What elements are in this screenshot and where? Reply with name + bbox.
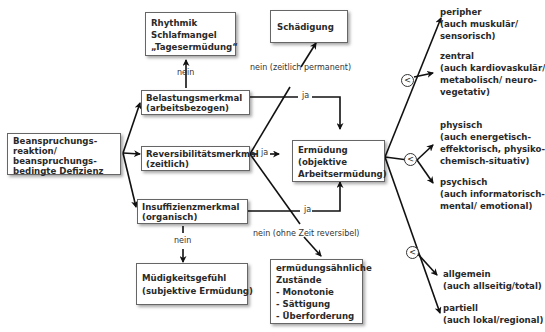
root-line-4: bedingte Defizienz [13,166,115,176]
rhythmik-box: Rhythmik Schlafmangel „Tagesermüdung“ [145,12,236,56]
psychisch-line-3: mental/ emotional) [440,200,545,212]
rhythmik-line-3: „Tagesermüdung“ [151,41,230,53]
belastung-subtitle: (arbeitsbezogen) [146,103,245,113]
ermuedung-line-2: (objektive [298,156,379,168]
peripher-title: peripher [440,6,518,18]
comparator-icon-middle: < [404,153,417,166]
label-ja-belastung: ja [302,91,309,100]
rhythmik-line-1: Rhythmik [151,17,230,29]
ermuedung-line-3: Arbeitsermüdung) [298,168,379,180]
partiell-line-2: (auch lokal/regional) [443,314,543,326]
muedigkeit-title: Müdigkeitsgefühl [142,272,242,285]
partiell-title: partiell [443,302,543,314]
root-line-2: reaktion/ [13,146,115,156]
label-partiell: partiell (auch lokal/regional) [443,302,543,326]
label-nein-top: nein [177,68,194,77]
zentral-line-4: vegetativ) [440,86,545,98]
belastung-title: Belastungsmerkmal [146,93,245,103]
allgemein-line-2: (auch allseitig/total) [443,280,542,292]
peripher-line-2: (auch muskulär/ [440,18,518,30]
insuffizienz-title: Insuffizienzmerkmal [142,202,243,212]
zentral-title: zentral [440,50,545,62]
physisch-line-3: effektorisch, physiko- [440,143,545,155]
aehnlich-item-monotonie: - Monotonie [276,286,357,298]
aehnlich-item-ueberforderung: - Überforderung [276,310,357,322]
root-box: Beanspruchungs- reaktion/ beanspruchungs… [7,133,121,175]
aehnlich-item-saettigung: - Sättigung [276,298,357,310]
label-allgemein: allgemein (auch allseitig/total) [443,268,542,292]
label-nein-bottom: nein [174,236,191,245]
belastung-box: Belastungsmerkmal (arbeitsbezogen) [141,90,250,115]
aehnlich-line-1: ermüdungsähnliche [276,262,357,274]
psychisch-title: psychisch [440,176,545,188]
comparator-icon-top: < [401,74,414,87]
zentral-line-2: (auch kardiovaskulär/ [440,62,545,74]
reversibilitaet-title: Reversibilitätsmerkmal [146,149,245,159]
schaedigung-box: Schädigung [270,10,348,43]
insuffizienz-box: Insuffizienzmerkmal (organisch) [137,199,248,224]
aehnlich-line-2: Zustände [276,274,357,286]
label-nein-permanent: nein (zeitlich permanent) [250,63,351,72]
label-psychisch: psychisch (auch informatorisch- mental/ … [440,176,545,212]
insuffizienz-subtitle: (organisch) [142,212,243,222]
physisch-line-2: (auch energetisch- [440,131,545,143]
physisch-title: physisch [440,119,545,131]
muedigkeit-subtitle: (subjektive Ermüdung) [142,285,242,298]
allgemein-title: allgemein [443,268,542,280]
psychisch-line-2: (auch informatorisch- [440,188,545,200]
peripher-line-3: sensorisch) [440,30,518,42]
reversibilitaet-box: Reversibilitätsmerkmal (zeitlich) [141,146,250,171]
label-peripher: peripher (auch muskulär/ sensorisch) [440,6,518,42]
label-physisch: physisch (auch energetisch- effektorisch… [440,119,545,167]
label-ja-reversibel: ja [261,148,268,157]
physisch-line-4: chemisch-situativ) [440,155,545,167]
muedigkeit-box: Müdigkeitsgefühl (subjektive Ermüdung) [136,263,248,305]
label-zentral: zentral (auch kardiovaskulär/ metabolisc… [440,50,545,98]
reversibilitaet-subtitle: (zeitlich) [146,159,245,169]
schaedigung-title: Schädigung [277,21,341,33]
root-line-1: Beanspruchungs- [13,136,115,146]
comparator-icon-bottom: < [406,246,419,259]
rhythmik-line-2: Schlafmangel [151,29,230,41]
ermuedung-box: Ermüdung (objektive Arbeitsermüdung) [292,140,385,182]
label-ja-insuffizienz: ja [304,205,311,214]
aehnlich-box: ermüdungsähnliche Zustände - Monotonie -… [270,259,363,324]
root-line-3: beanspruchungs- [13,156,115,166]
zentral-line-3: metabolisch/ neuro- [440,74,545,86]
label-nein-reversibel: nein (ohne Zeit reversibel) [253,229,359,238]
ermuedung-line-1: Ermüdung [298,144,379,156]
